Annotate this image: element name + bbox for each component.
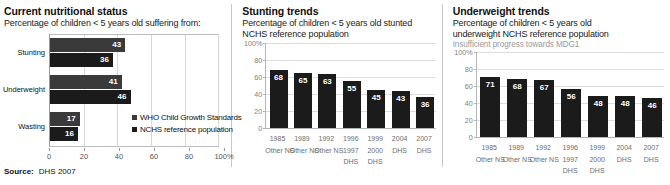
category-label: Wasting — [18, 122, 45, 131]
x-axis-label-line: 1989 — [503, 142, 530, 154]
bar-value-label: 17 — [67, 115, 80, 123]
bar: 41 — [50, 75, 122, 89]
stunting-trend-chart: 100%806040200 68656355454336 1985Other N… — [242, 43, 435, 185]
bar: 63 — [318, 74, 336, 128]
x-axis-category-label: 1992Other NS — [530, 142, 557, 165]
axis-tick — [49, 148, 50, 151]
x-axis-category-label: 19961997DHS — [557, 142, 584, 177]
x-axis-label-line: 2004 — [611, 142, 638, 154]
bar: 68 — [270, 70, 288, 128]
bar-value-label: 46 — [648, 102, 657, 110]
bar: 67 — [534, 80, 554, 137]
panel2-title: Stunting trends — [242, 5, 435, 17]
x-axis-label-line: 2004 — [387, 133, 411, 145]
gridline — [266, 43, 435, 44]
bar: 48 — [588, 96, 608, 137]
bar-value-label: 43 — [112, 41, 125, 49]
axis-tick — [474, 120, 477, 121]
axis-tick — [154, 148, 155, 151]
x-axis-label-line: DHS — [363, 156, 387, 168]
y-axis-tick-label: 80 — [254, 56, 262, 65]
axis-tick — [119, 148, 120, 151]
x-axis-category-label: 1992Other NS — [314, 133, 338, 156]
value-axis: 020406080100% — [49, 148, 219, 164]
underweight-trend-chart: 100%806040200 71686756484846 1985Other N… — [453, 52, 664, 185]
gridline — [266, 60, 435, 61]
y-axis-tick-label: 60 — [465, 82, 473, 91]
bar-value-label: 48 — [594, 100, 603, 108]
x-axis-category-label: 2007DHS — [638, 142, 665, 165]
source-note: Source:DHS 2007 — [4, 167, 76, 176]
bar: 43 — [50, 38, 125, 52]
legend-item: WHO Child Growth Standards — [132, 112, 242, 124]
y-axis: 100%806040200 — [242, 43, 264, 129]
axis-tick — [474, 69, 477, 70]
x-axis-label-line: 1999 — [584, 142, 611, 154]
x-axis-label-line: DHS — [557, 165, 584, 177]
panel3-subtitle-line2: underweight NCHS reference population — [453, 29, 664, 40]
bar-value-label: 71 — [486, 81, 495, 89]
category-axis: StuntingUnderweightWasting — [4, 34, 48, 147]
x-axis-label-line: 1999 — [363, 133, 387, 145]
x-axis-label-line: 2007 — [638, 142, 665, 154]
bar-value-label: 41 — [109, 78, 122, 86]
axis-tick-label: 20 — [80, 152, 88, 161]
bar-value-label: 16 — [65, 130, 78, 138]
bar-value-label: 67 — [540, 84, 549, 92]
x-axis-label-line: 1997 — [557, 154, 584, 166]
x-axis-label-line: 1989 — [290, 133, 314, 145]
bar-value-label: 63 — [323, 78, 332, 86]
x-axis-label-line: Other NS — [265, 145, 289, 157]
y-axis-tick-label: 40 — [254, 90, 262, 99]
x-axis-label-line: DHS — [638, 154, 665, 166]
x-axis-category-label: 2007DHS — [412, 133, 436, 156]
x-axis-label-line: 1992 — [314, 133, 338, 145]
bar: 48 — [615, 96, 635, 137]
x-axis-label-line: 2000 — [584, 154, 611, 166]
bar: 65 — [294, 73, 312, 128]
x-axis-label-line: 2000 — [363, 145, 387, 157]
legend-label: WHO Child Growth Standards — [140, 113, 242, 122]
axis-baseline — [477, 137, 664, 138]
y-axis: 100%806040200 — [453, 52, 475, 138]
axis-tick — [474, 103, 477, 104]
axis-tick — [224, 148, 225, 151]
y-axis-tick-label: 100% — [454, 48, 472, 57]
panel-underweight-trends: Underweight trends Percentage of childre… — [443, 0, 670, 185]
x-axis-label-line: Other NS — [530, 154, 557, 166]
bar: 46 — [642, 98, 662, 137]
axis-tick-label: 0 — [47, 152, 51, 161]
x-axis-label-line: 1985 — [265, 133, 289, 145]
y-axis-tick-label: 0 — [258, 124, 262, 133]
source-value: DHS 2007 — [39, 167, 76, 176]
x-axis-label-line: 1996 — [339, 133, 363, 145]
axis-tick — [189, 148, 190, 151]
x-axis-category-label: 19992000DHS — [584, 142, 611, 177]
x-axis-category-label: 1989Other NS — [503, 142, 530, 165]
axis-tick — [474, 86, 477, 87]
x-axis-label-line: 1992 — [530, 142, 557, 154]
panel2-subtitle-line2: NCHS reference population — [242, 29, 435, 40]
x-axis-category-label: 1985Other NS — [476, 142, 503, 165]
panel-stunting-trends: Stunting trends Percentage of children <… — [232, 0, 441, 185]
axis-tick-label: 40 — [115, 152, 123, 161]
x-axis-label-line: 1996 — [557, 142, 584, 154]
horizontal-bar-chart: StuntingUnderweightWasting 433641461716 … — [4, 34, 223, 162]
panel2-subtitle-line1: Percentage of children < 5 years old stu… — [242, 18, 435, 29]
x-axis-label-line: DHS — [339, 156, 363, 168]
panel3-mdg-note: Insufficient progress towards MDG1 — [453, 40, 664, 50]
x-axis-label-line: DHS — [584, 165, 611, 177]
x-axis-label-line: Other NS — [476, 154, 503, 166]
y-axis-tick-label: 60 — [254, 73, 262, 82]
category-label: Underweight — [3, 85, 45, 94]
bar-value-label: 68 — [274, 74, 283, 82]
panel3-title: Underweight trends — [453, 5, 664, 17]
y-axis-tick-label: 100% — [244, 39, 262, 48]
y-axis-tick-label: 80 — [465, 65, 473, 74]
bar: 17 — [50, 112, 80, 126]
x-axis: 1985Other NS1989Other NS1992Other NS1996… — [265, 133, 435, 185]
axis-tick — [263, 94, 266, 95]
y-axis-tick-label: 0 — [469, 133, 473, 142]
gridline — [477, 69, 664, 70]
y-axis-tick-label: 20 — [254, 107, 262, 116]
